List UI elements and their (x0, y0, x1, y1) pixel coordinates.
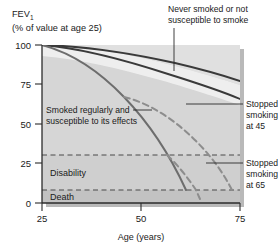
death-zone-label: Death (50, 192, 74, 202)
smoked-regularly-annotation-line1: Smoked regularly and (46, 105, 130, 115)
stopped-at-65-annotation-line3: at 65 (246, 180, 265, 190)
y-axis-label-line1: FEV1 (12, 9, 34, 21)
x-tick-label-75: 75 (235, 213, 246, 224)
y-tick-label-25: 25 (20, 158, 31, 169)
stopped-at-45-annotation-line1: Stopped (246, 99, 278, 109)
smoked-regularly-annotation-line2: susceptible to its effects (46, 116, 137, 126)
y-tick-label-0: 0 (26, 198, 31, 209)
never-smoked-annotation-line2: susceptible to smoke (168, 15, 248, 25)
stopped-at-65-annotation-line1: Stopped (246, 158, 278, 168)
y-tick-label-75: 75 (20, 79, 31, 90)
never-smoked-annotation-line1: Never smoked or not (168, 4, 248, 14)
x-axis-label: Age (years) (118, 232, 165, 242)
disability-zone-label: Disability (50, 168, 87, 178)
y-axis-label-subscript: 1 (30, 14, 34, 21)
plot-shadow-right (240, 49, 244, 207)
stopped-at-65-annotation-line2: smoking (246, 169, 278, 179)
y-tick-label-100: 100 (15, 40, 31, 51)
chart-svg: 100 75 50 25 0 25 50 75 Age (years) FEV1… (0, 0, 278, 251)
fev1-decline-chart: 100 75 50 25 0 25 50 75 Age (years) FEV1… (0, 0, 278, 251)
x-tick-label-50: 50 (136, 213, 147, 224)
y-tick-label-50: 50 (20, 119, 31, 130)
stopped-at-45-annotation-line3: at 45 (246, 121, 265, 131)
y-axis-label-line2: (% of value at age 25) (12, 23, 102, 33)
x-tick-label-25: 25 (37, 213, 48, 224)
y-axis-label-fev: FEV (12, 9, 31, 19)
stopped-at-45-annotation-line2: smoking (246, 110, 278, 120)
